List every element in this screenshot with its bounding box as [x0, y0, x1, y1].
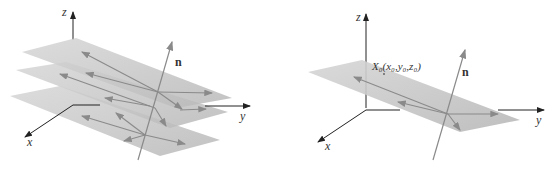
z-axis-label: z — [61, 5, 67, 19]
x-axis — [318, 110, 366, 142]
point-x0 — [383, 73, 385, 75]
x-axis-label: x — [324, 139, 331, 153]
y-axis-label: y — [239, 109, 246, 123]
normal-label: n — [175, 55, 182, 69]
normal-label: n — [462, 65, 469, 79]
y-axis-label: y — [535, 113, 542, 127]
left-figure: z x y n — [10, 5, 250, 160]
right-figure: z x y n X₀(x₀,y₀,z₀) — [308, 10, 544, 160]
x-axis-label: x — [26, 135, 33, 149]
point-label: X₀(x₀,y₀,z₀) — [371, 60, 421, 73]
z-axis-label: z — [355, 10, 361, 24]
